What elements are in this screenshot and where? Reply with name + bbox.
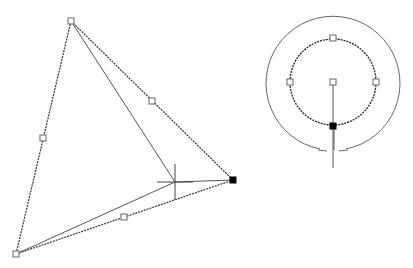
- grip-midpoint-bottom[interactable]: [121, 214, 127, 220]
- outer-gap-tick-right: [339, 150, 348, 151]
- drawing-canvas[interactable]: [0, 0, 413, 268]
- grip-circle-top[interactable]: [330, 35, 336, 41]
- triangle-grips[interactable]: [13, 18, 236, 257]
- grip-vertex-top[interactable]: [68, 18, 74, 24]
- rubberband-from-bottom-left: [16, 182, 175, 254]
- grip-vertex-bottom-left[interactable]: [13, 251, 19, 257]
- grip-circle-center[interactable]: [330, 79, 336, 85]
- grip-circle-right[interactable]: [373, 79, 379, 85]
- grip-midpoint-left[interactable]: [40, 135, 46, 141]
- grip-circle-bottom-selected[interactable]: [330, 123, 336, 129]
- grip-circle-left[interactable]: [287, 79, 293, 85]
- rubberband-from-top: [71, 21, 175, 182]
- crosshair-cursor-icon: [157, 164, 193, 200]
- grip-midpoint-right[interactable]: [149, 98, 155, 104]
- grip-vertex-right-selected[interactable]: [230, 177, 236, 183]
- outer-gap-tick-left: [318, 150, 327, 151]
